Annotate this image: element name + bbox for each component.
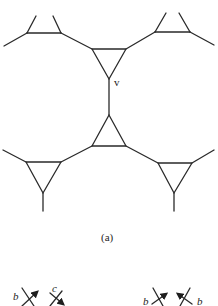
- bottom-right-crossings: b b: [143, 288, 203, 306]
- edge-top-right-to-center: [126, 32, 155, 49]
- edge-bottom-center-to-right: [126, 146, 158, 163]
- bottom-center-triangle: [92, 115, 126, 146]
- figure-caption: (a): [101, 231, 114, 244]
- label-c: c: [52, 282, 57, 294]
- top-center-triangle: [92, 49, 126, 79]
- bottom-left-triangle: [3, 150, 61, 211]
- label-b-right-1: b: [143, 295, 149, 306]
- edge-bottom-center-to-left: [61, 146, 92, 162]
- vertex-label-v: v: [114, 76, 120, 88]
- edge-top-left-to-center: [61, 33, 92, 49]
- bottom-left-crossings: b c: [13, 282, 63, 306]
- top-left-triangle: [4, 16, 61, 46]
- top-right-triangle: [155, 13, 214, 45]
- bottom-right-triangle: [158, 150, 214, 211]
- cubic-graph-diagram: v (a) b c b b: [0, 0, 218, 306]
- label-b-left: b: [13, 290, 19, 302]
- label-b-right-2: b: [197, 295, 203, 306]
